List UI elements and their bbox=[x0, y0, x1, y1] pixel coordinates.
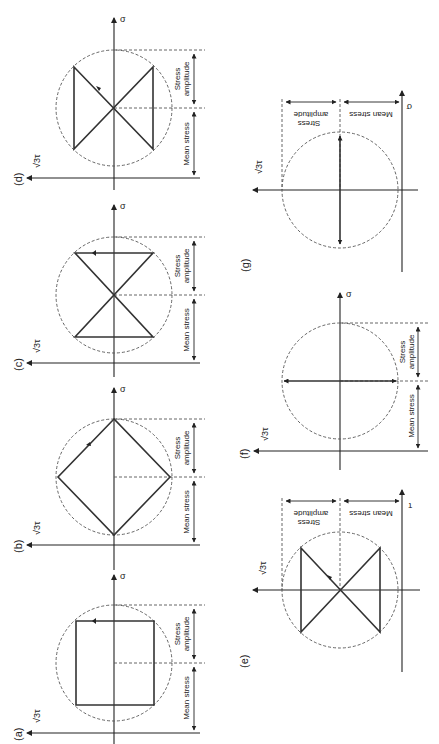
stress-amplitude-label-1: Stress bbox=[298, 518, 321, 527]
panel-label: (c) bbox=[12, 358, 24, 371]
stress-amplitude-label-2: amplitude bbox=[182, 248, 191, 283]
stress-amplitude-label-1: Stress bbox=[173, 623, 182, 646]
panel-d: σ √3τ (d) Stress amplitude Mean stress bbox=[12, 14, 205, 190]
mean-stress-label: Mean stress bbox=[407, 394, 416, 438]
panel-e: τ √3τ (e) amplitude Stress Mean stress bbox=[238, 490, 420, 672]
stress-amplitude-label-1: Stress bbox=[298, 119, 321, 128]
tau-alt-axis-label: τ bbox=[408, 501, 412, 511]
panel-label: (b) bbox=[12, 540, 24, 553]
tau-axis-label: √3τ bbox=[32, 709, 42, 723]
mean-stress-label: Mean stress bbox=[349, 509, 393, 518]
path-direction-arrow bbox=[92, 618, 96, 624]
stress-amplitude-label-2: amplitude bbox=[293, 509, 328, 518]
stress-amplitude-label-2: amplitude bbox=[293, 110, 328, 119]
sigma-axis-label: σ bbox=[120, 201, 126, 211]
panel-b: σ √3τ (b) Stress amplitude Mean stress bbox=[12, 384, 205, 570]
panel-label: (e) bbox=[238, 655, 250, 668]
panel-g: σ √3τ (g) amplitude Stress Mean stress bbox=[239, 91, 418, 272]
stress-amplitude-label-2: amplitude bbox=[182, 430, 191, 465]
panel-f: σ √3τ (f) Stress amplitude Mean stress bbox=[238, 289, 430, 470]
path-direction-arrow bbox=[92, 250, 96, 256]
sigma-axis-label: σ bbox=[346, 289, 352, 299]
tau-axis-label: √3τ bbox=[254, 160, 264, 174]
tau-axis-label: √3τ bbox=[32, 521, 42, 535]
panel-label: (g) bbox=[239, 259, 251, 272]
tau-axis-label: √3τ bbox=[32, 154, 42, 168]
stress-amplitude-label-2: amplitude bbox=[407, 334, 416, 369]
mean-stress-label: Mean stress bbox=[182, 676, 191, 720]
stress-amplitude-label-1: Stress bbox=[173, 68, 182, 91]
panel-a: σ √3τ (a) Stress amplitude Mean stress bbox=[12, 571, 205, 744]
tau-axis-label: √3τ bbox=[260, 427, 270, 441]
mean-stress-label: Mean stress bbox=[182, 490, 191, 534]
mean-stress-label: Mean stress bbox=[182, 308, 191, 352]
sigma-axis-label: σ bbox=[406, 102, 412, 112]
stress-amplitude-label-1: Stress bbox=[173, 255, 182, 278]
tau-axis-label: √3τ bbox=[258, 561, 268, 575]
stress-amplitude-label-2: amplitude bbox=[182, 616, 191, 651]
stress-amplitude-label-2: amplitude bbox=[182, 61, 191, 96]
panel-label: (a) bbox=[12, 728, 24, 741]
mean-stress-label: Mean stress bbox=[182, 122, 191, 166]
panel-label: (f) bbox=[238, 449, 250, 459]
stress-path-figure: σ √3τ (d) Stress amplitude Mean stress σ… bbox=[0, 0, 439, 744]
sigma-axis-label: σ bbox=[120, 14, 126, 24]
panel-c: σ √3τ (c) Stress amplitude Mean stress bbox=[12, 201, 205, 377]
sigma-axis-label: σ bbox=[120, 571, 126, 581]
tau-axis-label: √3τ bbox=[32, 339, 42, 353]
stress-amplitude-label-1: Stress bbox=[398, 341, 407, 364]
panel-label: (d) bbox=[12, 173, 24, 186]
stress-amplitude-label-1: Stress bbox=[173, 437, 182, 460]
mean-stress-label: Mean stress bbox=[349, 110, 393, 119]
sigma-axis-label: σ bbox=[120, 384, 126, 394]
